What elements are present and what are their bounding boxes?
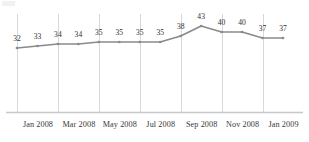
x-axis-tick-labels: Jan 2008Mar 2008May 2008Jul 2008Sep 2008…: [0, 120, 309, 136]
x-tick-label: Jan 2009: [268, 120, 298, 129]
data-point-marker: [36, 45, 39, 48]
x-tick-label: Nov 2008: [226, 120, 259, 129]
x-tick-label: May 2008: [103, 120, 137, 129]
line-chart: 3233343435353535384340403737 Jan 2008Mar…: [0, 0, 309, 142]
data-point-marker: [241, 31, 244, 34]
x-tick-label: Sep 2008: [186, 120, 218, 129]
data-value-label: 37: [279, 24, 287, 33]
x-tick-label: Jan 2008: [23, 120, 53, 129]
data-point-marker: [77, 43, 80, 46]
x-tick-label: Mar 2008: [62, 120, 95, 129]
data-value-label: 35: [95, 28, 103, 37]
data-value-label: 33: [34, 32, 42, 41]
data-value-label: 35: [136, 28, 144, 37]
data-value-label: 32: [13, 34, 21, 43]
data-point-marker: [200, 25, 203, 28]
data-point-marker: [179, 35, 182, 38]
data-value-label: 35: [116, 28, 124, 37]
data-value-label: 34: [54, 30, 62, 39]
data-value-label: 34: [75, 30, 83, 39]
data-value-label: 40: [238, 18, 246, 27]
data-point-marker: [97, 41, 100, 44]
x-tick-label: Jul 2008: [146, 120, 175, 129]
data-value-label: 37: [259, 24, 267, 33]
data-point-marker: [282, 37, 285, 40]
data-value-label: 38: [177, 22, 185, 31]
data-point-marker: [118, 41, 121, 44]
data-value-label: 43: [197, 12, 205, 21]
data-point-marker: [138, 41, 141, 44]
data-point-marker: [159, 41, 162, 44]
data-point-marker: [261, 37, 264, 40]
data-point-marker: [57, 43, 60, 46]
data-value-label: 35: [156, 28, 164, 37]
data-value-label: 40: [218, 18, 226, 27]
data-point-marker: [16, 47, 19, 50]
data-point-marker: [220, 31, 223, 34]
